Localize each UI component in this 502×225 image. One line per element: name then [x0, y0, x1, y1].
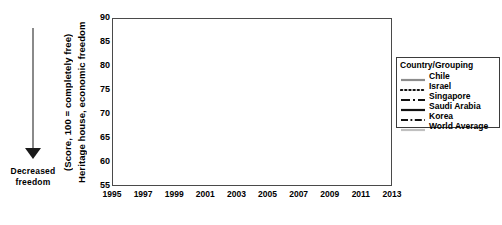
y-axis-tick-65: 65: [84, 133, 110, 142]
x-axis-tick-1999: 1999: [158, 189, 190, 199]
y-axis-tick-70: 70: [84, 109, 110, 118]
legend: Country/Grouping ChileIsraelSingaporeSau…: [396, 57, 500, 128]
legend-item-world-average[interactable]: World Average: [400, 121, 499, 131]
legend-item-chile[interactable]: Chile: [400, 71, 499, 81]
x-axis-tick-labels: 1995199719992001200320052007200920112013: [112, 189, 392, 203]
legend-item-saudi-arabia[interactable]: Saudi Arabia: [400, 101, 499, 111]
y-axis-tick-80: 80: [84, 61, 110, 70]
legend-item-korea[interactable]: Korea: [400, 111, 499, 121]
legend-label-chile: Chile: [429, 71, 450, 81]
legend-label-world-average: World Average: [429, 121, 488, 131]
x-axis-tick-2013: 2013: [376, 189, 408, 199]
legend-swatch-world-average: [400, 121, 426, 131]
legend-title: Country/Grouping: [400, 60, 499, 70]
legend-label-saudi-arabia: Saudi Arabia: [429, 101, 481, 111]
y-axis-tick-75: 75: [84, 85, 110, 94]
legend-label-singapore: Singapore: [429, 91, 471, 101]
down-arrow-icon: [25, 148, 41, 159]
legend-item-singapore[interactable]: Singapore: [400, 91, 499, 101]
plot-area: [112, 18, 392, 186]
y-axis-tick-labels: 5560657075808590: [82, 18, 110, 186]
x-axis-tick-1997: 1997: [127, 189, 159, 199]
y-axis-title-line2: (Score, 100 = completely free): [60, 12, 74, 192]
legend-swatch-korea: [400, 111, 426, 121]
legend-label-israel: Israel: [429, 81, 451, 91]
legend-swatch-israel: [400, 81, 426, 91]
y-axis-tick-60: 60: [84, 157, 110, 166]
x-axis-tick-2001: 2001: [189, 189, 221, 199]
x-axis-tick-1995: 1995: [96, 189, 128, 199]
plot-frame: [112, 18, 392, 186]
legend-rows: ChileIsraelSingaporeSaudi ArabiaKoreaWor…: [400, 71, 499, 131]
chart-figure: Decreased freedom Heritage house, econom…: [0, 0, 502, 225]
x-axis-tick-2005: 2005: [252, 189, 284, 199]
legend-swatch-chile: [400, 71, 426, 81]
y-axis-tick-85: 85: [84, 37, 110, 46]
legend-item-israel[interactable]: Israel: [400, 81, 499, 91]
x-axis-tick-2003: 2003: [220, 189, 252, 199]
legend-label-korea: Korea: [429, 111, 453, 121]
x-axis-tick-2011: 2011: [345, 189, 377, 199]
y-axis-tick-90: 90: [84, 13, 110, 22]
legend-swatch-singapore: [400, 91, 426, 101]
x-axis-tick-2009: 2009: [314, 189, 346, 199]
legend-swatch-saudi-arabia: [400, 101, 426, 111]
arrow-shaft: [32, 28, 34, 152]
x-axis-tick-2007: 2007: [283, 189, 315, 199]
